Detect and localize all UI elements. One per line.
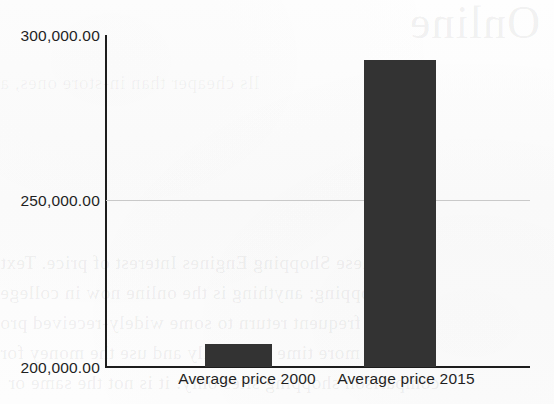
bar-average-price-2000 xyxy=(205,344,272,367)
bar-chart-figure: Online lls cheaper than in-store ones, a… xyxy=(0,0,554,404)
x-axis-line xyxy=(105,366,530,368)
x-tick-label-average-price-2000: Average price 2000 xyxy=(178,370,316,388)
y-axis-line xyxy=(105,35,107,368)
x-tick-label-average-price-2015: Average price 2015 xyxy=(337,370,475,388)
y-gridline-250000 xyxy=(106,200,530,201)
y-tick-label-250000: 250,000.00 xyxy=(0,192,100,210)
plot-area: 300,000.00 250,000.00 200,000.00 Average… xyxy=(0,0,554,404)
y-tick-label-200000: 200,000.00 xyxy=(0,359,100,377)
bar-average-price-2015 xyxy=(364,60,436,367)
y-tick-label-300000: 300,000.00 xyxy=(0,27,100,45)
